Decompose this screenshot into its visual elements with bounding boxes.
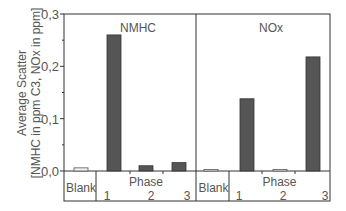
phase-label: Phase (129, 175, 163, 189)
bar-nox-3 (306, 57, 320, 171)
plot-frame (64, 14, 330, 201)
y-tick-label: 0,0 (41, 164, 59, 179)
scatter-bar-chart: Average Scatter [NMHC in ppm C3, NOx in … (0, 0, 346, 211)
panels: NMHCBlankPhase123NOxBlankPhase123 (66, 21, 329, 203)
panel-title: NMHC (120, 21, 156, 35)
phase-number-label: 2 (148, 189, 155, 203)
bar-nox-2 (273, 169, 287, 171)
bar-nmhc-1 (107, 35, 121, 171)
plot-border (64, 14, 330, 201)
phase-number-label: 1 (236, 189, 243, 203)
panel-nmhc: NMHCBlankPhase123 (66, 21, 191, 203)
blank-label: Blank (66, 181, 97, 195)
phase-number-label: 1 (104, 189, 111, 203)
y-tick-label: 0,2 (41, 59, 59, 74)
y-tick-label: 0,1 (41, 112, 59, 127)
bar-nox-blank (204, 169, 218, 171)
phase-label: Phase (262, 175, 296, 189)
y-axis-label-line1: Average Scatter (15, 50, 29, 136)
blank-label: Blank (198, 181, 229, 195)
bar-nmhc-2 (139, 166, 153, 171)
y-axis-label: Average Scatter [NMHC in ppm C3, NOx in … (15, 8, 43, 179)
y-axis: 0,00,10,20,3 (41, 7, 64, 179)
panel-nox: NOxBlankPhase123 (198, 21, 328, 203)
phase-number-label: 2 (280, 189, 287, 203)
phase-number-label: 3 (322, 189, 329, 203)
panel-title: NOx (259, 21, 283, 35)
y-tick-label: 0,3 (41, 7, 59, 22)
phase-number-label: 3 (184, 189, 191, 203)
bar-nmhc-3 (172, 163, 186, 171)
bar-nmhc-blank (74, 168, 88, 171)
y-axis-label-line2: [NMHC in ppm C3, NOx in ppm] (29, 8, 43, 179)
bar-nox-1 (240, 99, 254, 171)
